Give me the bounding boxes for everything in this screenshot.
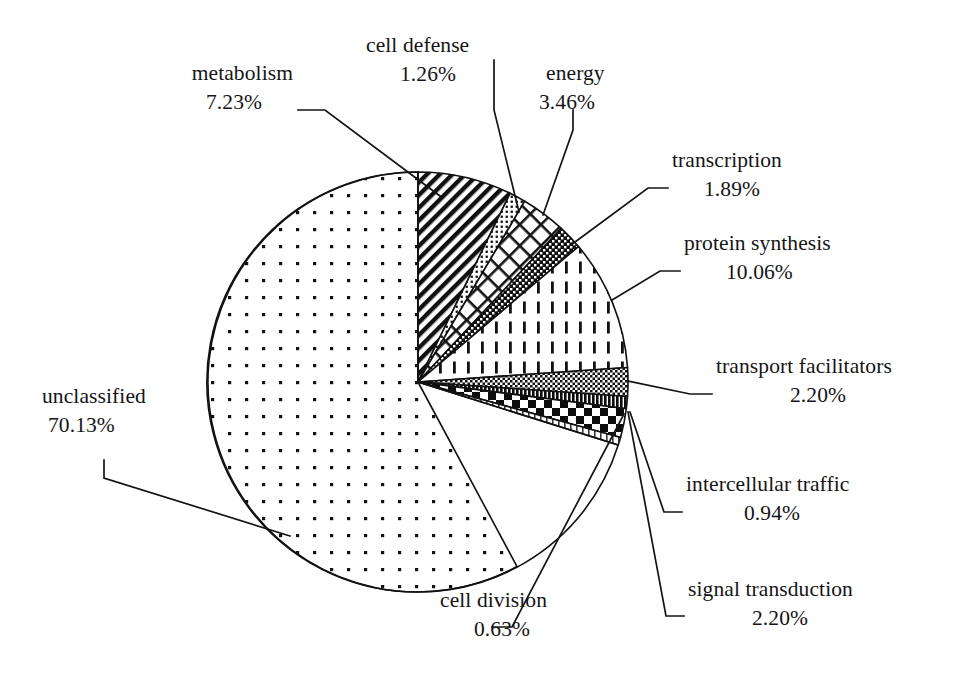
pie-label-metabolism-percent: 7.23% — [206, 90, 262, 114]
pie-label-protein-synthesis-percent: 10.06% — [726, 260, 793, 284]
pie-label-transport-facilitators-title: transport facilitators — [716, 354, 892, 378]
pie-label-transport-facilitators-percent: 2.20% — [790, 383, 846, 407]
pie-label-unclassified-title: unclassified — [42, 384, 146, 408]
pie-label-cell-division-title: cell division — [440, 588, 547, 612]
pie-label-cell-defense-percent: 1.26% — [400, 62, 456, 86]
pie-label-metabolism-title: metabolism — [192, 61, 293, 85]
pie-label-transcription-title: transcription — [672, 148, 782, 172]
pie-label-energy-title: energy — [546, 61, 605, 85]
pie-label-protein-synthesis-title: protein synthesis — [684, 231, 831, 255]
pie-label-transcription-percent: 1.89% — [704, 177, 760, 201]
pie-label-intercellular-traffic-percent: 0.94% — [744, 501, 800, 525]
pie-label-cell-defense-title: cell defense — [366, 33, 469, 57]
pie-label-energy-percent: 3.46% — [539, 90, 595, 114]
pie-chart-canvas: metabolism 7.23% cell defense 1.26% ener… — [0, 0, 964, 694]
pie-label-signal-transduction-title: signal transduction — [688, 577, 853, 601]
pie-label-unclassified-percent: 70.13% — [48, 413, 115, 437]
pie-chart-figure: metabolism 7.23% cell defense 1.26% ener… — [0, 0, 964, 694]
pie-label-intercellular-traffic-title: intercellular traffic — [686, 472, 849, 496]
pie-label-signal-transduction-percent: 2.20% — [752, 606, 808, 630]
pie-label-cell-division-percent: 0.63% — [474, 617, 530, 641]
